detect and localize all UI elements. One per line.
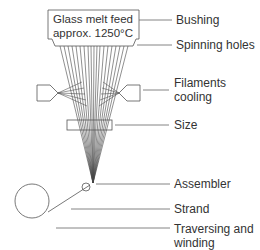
label-traversing-winding-line2: winding xyxy=(174,236,254,250)
winding-drum xyxy=(15,184,49,218)
filaments xyxy=(60,46,128,183)
label-spinning-holes: Spinning holes xyxy=(176,38,255,52)
label-traversing-winding: Traversing and winding xyxy=(174,222,254,250)
label-filaments-cooling-line2: cooling xyxy=(174,90,226,104)
bushing-text-line1: Glass melt feed xyxy=(50,12,136,26)
label-assembler: Assembler xyxy=(174,177,231,191)
label-strand: Strand xyxy=(174,202,209,216)
leader-lines xyxy=(56,20,172,228)
bushing-text: Glass melt feed approx. 1250°C xyxy=(50,12,136,40)
label-filaments-cooling-line1: Filaments xyxy=(174,76,226,90)
cooling-nozzle-right xyxy=(119,85,140,101)
label-bushing: Bushing xyxy=(176,13,219,27)
label-filaments-cooling: Filaments cooling xyxy=(174,76,226,104)
bushing-text-line2: approx. 1250°C xyxy=(50,26,136,40)
cooling-nozzle-left xyxy=(37,85,58,101)
strand-line xyxy=(48,185,90,212)
label-size: Size xyxy=(174,118,197,132)
label-traversing-winding-line1: Traversing and xyxy=(174,222,254,236)
